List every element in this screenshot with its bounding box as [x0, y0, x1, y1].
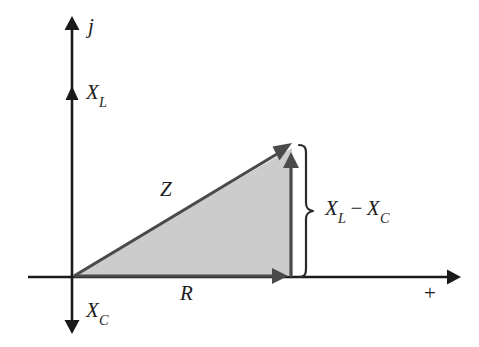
net-reactance-label: XL−XC	[325, 198, 389, 222]
inductive-reactance-label: XL	[86, 82, 107, 106]
inductive-reactance-base: X	[86, 80, 99, 104]
net-reactance-second-subscript: C	[380, 210, 390, 226]
imaginary-axis-label: j	[88, 16, 94, 37]
capacitive-reactance-base: X	[86, 298, 99, 322]
capacitive-reactance-label: XC	[86, 300, 108, 324]
resistance-label: R	[180, 283, 193, 304]
imaginary-axis-down-arrowhead	[65, 320, 80, 334]
net-reactance-first-subscript: L	[338, 210, 346, 226]
capacitive-reactance-subscript: C	[99, 312, 109, 328]
net-reactance-brace	[299, 145, 313, 277]
imaginary-axis-up-arrowhead	[65, 16, 80, 30]
real-axis-arrowhead	[447, 270, 461, 285]
impedance-label: Z	[160, 179, 172, 200]
diagram-canvas	[0, 0, 479, 347]
impedance-vector-diagram: j XL XC Z R XL−XC +	[0, 0, 479, 347]
inductive-reactance-subscript: L	[99, 94, 107, 110]
net-reactance-first-base: X	[325, 196, 338, 220]
real-axis-label: +	[424, 283, 436, 304]
net-reactance-second-base: X	[367, 196, 380, 220]
inductive-reactance-arrowhead	[66, 86, 79, 100]
net-reactance-operator: −	[346, 196, 367, 220]
